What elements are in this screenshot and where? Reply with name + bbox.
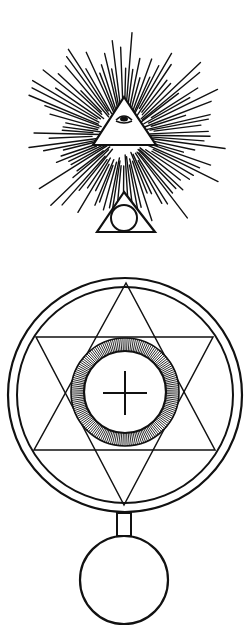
small-triangle bbox=[97, 192, 155, 232]
pendant-stem bbox=[117, 513, 131, 536]
illustration bbox=[0, 0, 251, 639]
pendant-circle bbox=[80, 536, 168, 624]
emblem-drawing bbox=[0, 0, 251, 639]
